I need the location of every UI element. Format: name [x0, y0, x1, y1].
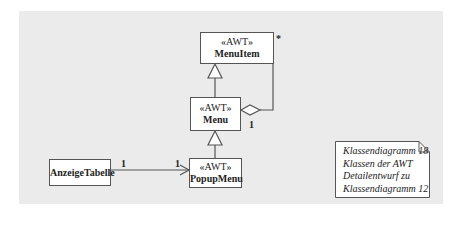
multiplicity-popupmenu: 1 — [175, 158, 180, 169]
class-menuitem[interactable]: «AWT» MenuItem — [200, 32, 274, 64]
stereotype-label: «AWT» — [190, 161, 241, 173]
class-popupmenu[interactable]: «AWT» PopupMenu — [189, 158, 242, 188]
class-name: MenuItem — [201, 48, 273, 60]
class-menu[interactable]: «AWT» Menu — [190, 97, 241, 131]
multiplicity-menu: 1 — [249, 119, 254, 130]
aggregation-diamond-icon — [241, 105, 260, 115]
generalization-arrow-icon — [208, 131, 222, 145]
note-line: Klassendiagramm 12 — [343, 183, 428, 196]
note: Klassendiagramm 18 Klassen der AWT Detai… — [335, 141, 430, 198]
generalization-arrow-icon — [208, 64, 222, 78]
note-line: Detailentwurf zu — [343, 170, 428, 183]
class-anzeigetabelle[interactable]: AnzeigeTabelle — [49, 159, 111, 186]
multiplicity-anzeigetabelle: 1 — [121, 158, 126, 169]
class-name: Menu — [191, 114, 240, 126]
note-text: Klassendiagramm 18 Klassen der AWT Detai… — [343, 145, 428, 195]
note-line: Klassen der AWT — [343, 158, 428, 171]
stereotype-label: «AWT» — [191, 102, 240, 114]
multiplicity-menuitem: * — [276, 33, 281, 44]
stereotype-label: «AWT» — [201, 36, 273, 48]
class-name: AnzeigeTabelle — [50, 167, 110, 179]
note-line: Klassendiagramm 18 — [343, 145, 428, 158]
class-name: PopupMenu — [190, 173, 241, 185]
